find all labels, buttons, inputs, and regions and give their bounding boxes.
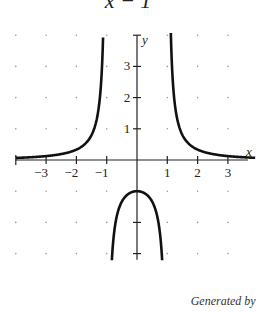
y-tick-label: 1 (124, 121, 131, 136)
x-tick-label: −3 (34, 165, 48, 180)
credit-text: Generated by Deriv (191, 294, 256, 309)
y-tick-label: 3 (124, 58, 131, 73)
x-tick-label: 1 (164, 165, 171, 180)
curve-left-branch (16, 37, 103, 157)
x-tick-label: 3 (225, 165, 232, 180)
function-plot: −3−2−1123123xy (0, 0, 256, 314)
grid-dots (15, 34, 229, 254)
curve-right-branch (171, 33, 255, 158)
axes (16, 35, 248, 260)
y-tick-label: 2 (124, 90, 131, 105)
x-tick-label: −1 (95, 165, 109, 180)
x-tick-label: 2 (194, 165, 201, 180)
y-axis-label: y (140, 32, 148, 47)
x-tick-label: −2 (64, 165, 78, 180)
